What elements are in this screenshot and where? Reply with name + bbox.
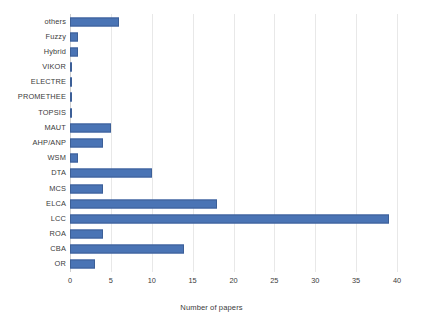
bar-row xyxy=(70,44,397,59)
category-label-maut: MAUT xyxy=(0,123,66,133)
category-label-ahp-anp: AHP/ANP xyxy=(0,138,66,148)
x-tick-label-5: 5 xyxy=(109,276,113,285)
bar-others[interactable] xyxy=(70,17,119,26)
category-label-elca: ELCA xyxy=(0,199,66,209)
bar-electre[interactable] xyxy=(70,78,72,87)
category-label-topsis: TOPSIS xyxy=(0,108,66,118)
category-label-hybrid: Hybrid xyxy=(0,47,66,57)
bar-row xyxy=(70,90,397,105)
bar-row xyxy=(70,211,397,226)
category-label-promethee: PROMETHEE xyxy=(0,92,66,102)
bar-or[interactable] xyxy=(70,260,95,269)
bar-ahp-anp[interactable] xyxy=(70,138,103,147)
bar-topsis[interactable] xyxy=(70,108,72,117)
plot-area xyxy=(70,14,397,272)
bar-row xyxy=(70,151,397,166)
bar-chart: othersFuzzyHybridVIKORELECTREPROMETHEETO… xyxy=(0,0,423,328)
bar-row xyxy=(70,120,397,135)
bar-maut[interactable] xyxy=(70,123,111,132)
x-tick-label-10: 10 xyxy=(148,276,156,285)
bar-row xyxy=(70,75,397,90)
category-label-wsm: WSM xyxy=(0,153,66,163)
bar-row xyxy=(70,196,397,211)
category-label-dta: DTA xyxy=(0,168,66,178)
bar-row xyxy=(70,60,397,75)
bar-row xyxy=(70,14,397,29)
category-label-cba: CBA xyxy=(0,244,66,254)
x-tick-label-20: 20 xyxy=(229,276,237,285)
category-label-others: others xyxy=(0,17,66,27)
x-axis-title: Number of papers xyxy=(0,303,423,312)
bar-promethee[interactable] xyxy=(70,93,72,102)
bar-elca[interactable] xyxy=(70,199,217,208)
bar-dta[interactable] xyxy=(70,169,152,178)
category-label-roa: ROA xyxy=(0,229,66,239)
bar-vikor[interactable] xyxy=(70,63,72,72)
bar-cba[interactable] xyxy=(70,245,184,254)
bar-wsm[interactable] xyxy=(70,154,78,163)
bar-row xyxy=(70,242,397,257)
category-label-vikor: VIKOR xyxy=(0,62,66,72)
category-axis-labels: othersFuzzyHybridVIKORELECTREPROMETHEETO… xyxy=(0,14,66,272)
x-tick-label-25: 25 xyxy=(270,276,278,285)
bar-row xyxy=(70,181,397,196)
bar-row xyxy=(70,105,397,120)
category-label-fuzzy: Fuzzy xyxy=(0,32,66,42)
x-tick-label-40: 40 xyxy=(393,276,401,285)
bar-row xyxy=(70,135,397,150)
bar-row xyxy=(70,226,397,241)
bar-rows xyxy=(70,14,397,272)
category-label-mcs: MCS xyxy=(0,184,66,194)
bar-fuzzy[interactable] xyxy=(70,32,78,41)
category-label-or: OR xyxy=(0,259,66,269)
bar-mcs[interactable] xyxy=(70,184,103,193)
x-tick-label-0: 0 xyxy=(68,276,72,285)
bar-roa[interactable] xyxy=(70,230,103,239)
bar-hybrid[interactable] xyxy=(70,47,78,56)
bar-row xyxy=(70,29,397,44)
gridline-40 xyxy=(397,14,398,272)
x-tick-label-30: 30 xyxy=(311,276,319,285)
x-tick-label-35: 35 xyxy=(352,276,360,285)
bar-row xyxy=(70,166,397,181)
bar-lcc[interactable] xyxy=(70,214,389,223)
bar-row xyxy=(70,257,397,272)
category-label-lcc: LCC xyxy=(0,214,66,224)
x-axis-tick-labels: 0510152025303540 xyxy=(0,276,423,290)
x-tick-label-15: 15 xyxy=(189,276,197,285)
category-label-electre: ELECTRE xyxy=(0,77,66,87)
